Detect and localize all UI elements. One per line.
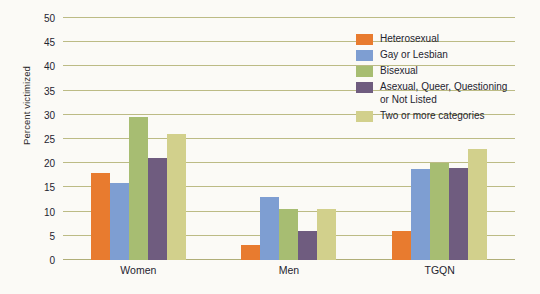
y-tick-label: 50 xyxy=(44,13,55,24)
y-tick-label: 20 xyxy=(44,158,55,169)
bar-group xyxy=(214,18,365,260)
bar[interactable] xyxy=(430,163,449,260)
bar[interactable] xyxy=(91,173,110,260)
y-tick-label: 5 xyxy=(49,230,55,241)
x-axis-category-labels: WomenMenTGQN xyxy=(63,264,515,286)
bar[interactable] xyxy=(260,197,279,260)
legend-swatch xyxy=(356,82,373,93)
y-tick-label: 45 xyxy=(44,37,55,48)
bar[interactable] xyxy=(411,169,430,260)
y-tick-label: 0 xyxy=(49,255,55,266)
x-category-label: Women xyxy=(120,264,156,276)
bar[interactable] xyxy=(167,134,186,260)
legend-label: Two or more categories xyxy=(380,110,485,123)
bar[interactable] xyxy=(148,158,167,260)
bar[interactable] xyxy=(241,245,260,260)
bar-chart: Percent victimized 05101520253035404550 … xyxy=(0,0,540,294)
x-category-label: TGQN xyxy=(424,264,454,276)
legend-swatch xyxy=(356,111,373,122)
bar[interactable] xyxy=(298,231,317,260)
y-tick-label: 40 xyxy=(44,61,55,72)
y-tick-label: 30 xyxy=(44,109,55,120)
bar[interactable] xyxy=(110,183,129,260)
legend-swatch xyxy=(356,34,373,45)
bar[interactable] xyxy=(392,231,411,260)
legend-label: Asexual, Queer, Questioning or Not Liste… xyxy=(380,81,507,106)
bar[interactable] xyxy=(279,209,298,260)
x-category-label: Men xyxy=(279,264,299,276)
legend-swatch xyxy=(356,50,373,61)
y-tick-label: 25 xyxy=(44,134,55,145)
legend-item[interactable]: Bisexual xyxy=(356,65,536,78)
legend-swatch xyxy=(356,66,373,77)
bar-group xyxy=(63,18,214,260)
legend-item[interactable]: Two or more categories xyxy=(356,110,536,123)
legend-item[interactable]: Heterosexual xyxy=(356,33,536,46)
legend-item[interactable]: Asexual, Queer, Questioning or Not Liste… xyxy=(356,81,536,106)
y-tick-label: 15 xyxy=(44,182,55,193)
bar[interactable] xyxy=(129,117,148,260)
legend-label: Gay or Lesbian xyxy=(380,49,448,62)
y-tick-label: 35 xyxy=(44,85,55,96)
bar[interactable] xyxy=(449,168,468,260)
legend-item[interactable]: Gay or Lesbian xyxy=(356,49,536,62)
bar[interactable] xyxy=(317,209,336,260)
legend: HeterosexualGay or LesbianBisexualAsexua… xyxy=(356,33,536,126)
legend-label: Heterosexual xyxy=(380,33,439,46)
y-tick-label: 10 xyxy=(44,206,55,217)
bar[interactable] xyxy=(468,149,487,260)
y-axis-tick-labels: 05101520253035404550 xyxy=(0,18,63,260)
legend-label: Bisexual xyxy=(380,65,418,78)
